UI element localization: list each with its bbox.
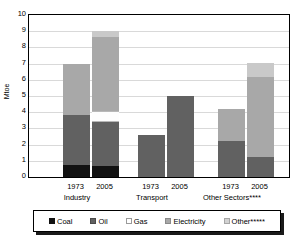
bar-other-sectors--2005 xyxy=(247,63,274,177)
bar-segment-coal xyxy=(63,165,90,177)
legend-swatch-gas-icon xyxy=(126,218,132,224)
bars-layer xyxy=(29,15,289,177)
legend-swatch-other-icon xyxy=(224,218,230,224)
legend-item-electricity: Electricity xyxy=(165,217,205,226)
y-axis-tick-4: 4 xyxy=(2,107,26,115)
y-axis-tick-2: 2 xyxy=(2,140,26,148)
y-axis-tick-1: 1 xyxy=(2,156,26,164)
bar-industry-1973 xyxy=(63,64,90,177)
legend-label: Electricity xyxy=(173,217,205,226)
bar-industry-2005 xyxy=(92,31,119,177)
y-axis-tick-6: 6 xyxy=(2,75,26,83)
bar-segment-electricity xyxy=(247,77,274,157)
bar-other-sectors--1973 xyxy=(218,109,245,177)
y-axis-tick-9: 9 xyxy=(2,26,26,34)
y-axis-tick-10: 10 xyxy=(2,10,26,18)
y-axis-tick-0: 0 xyxy=(2,172,26,180)
bar-segment-oil xyxy=(63,115,90,164)
legend-label: Other***** xyxy=(232,217,265,226)
x-axis-year-label: 2005 xyxy=(160,182,200,191)
bar-segment-oil xyxy=(167,96,194,177)
legend-label: Gas xyxy=(134,217,148,226)
plot-area xyxy=(28,14,290,178)
legend-swatch-oil-icon xyxy=(90,218,96,224)
bar-transport-2005 xyxy=(167,96,194,177)
bar-segment-electricity xyxy=(92,37,119,111)
x-axis-group-label: Other Sectors**** xyxy=(177,193,287,202)
bar-segment-oil xyxy=(247,157,274,177)
bar-segment-coal xyxy=(92,166,119,177)
bar-segment-oil xyxy=(218,141,245,177)
bar-segment-oil xyxy=(138,135,165,177)
y-axis-tick-3: 3 xyxy=(2,123,26,131)
bar-segment-other xyxy=(247,63,274,77)
y-axis-tick-5: 5 xyxy=(2,91,26,99)
legend-label: Oil xyxy=(98,217,107,226)
legend-swatch-electricity-icon xyxy=(165,218,171,224)
legend-item-coal: Coal xyxy=(49,217,72,226)
bar-segment-oil xyxy=(92,122,119,166)
legend-label: Coal xyxy=(57,217,72,226)
legend-item-gas: Gas xyxy=(126,217,148,226)
y-axis-tick-8: 8 xyxy=(2,42,26,50)
x-axis-year-label: 2005 xyxy=(85,182,125,191)
chart-legend: CoalOilGasElectricityOther***** xyxy=(33,210,281,232)
y-axis-tick-7: 7 xyxy=(2,59,26,67)
bar-transport-1973 xyxy=(138,135,165,177)
bar-segment-electricity xyxy=(63,64,90,116)
bar-segment-electricity xyxy=(218,109,245,141)
legend-item-oil: Oil xyxy=(90,217,107,226)
bar-segment-gas xyxy=(92,111,119,122)
x-axis-year-label: 2005 xyxy=(240,182,280,191)
legend-swatch-coal-icon xyxy=(49,218,55,224)
stacked-bar-chart: Mtoe 012345678910 19732005Industry197320… xyxy=(0,0,298,243)
bar-segment-other xyxy=(92,31,119,37)
legend-item-other: Other***** xyxy=(224,217,265,226)
